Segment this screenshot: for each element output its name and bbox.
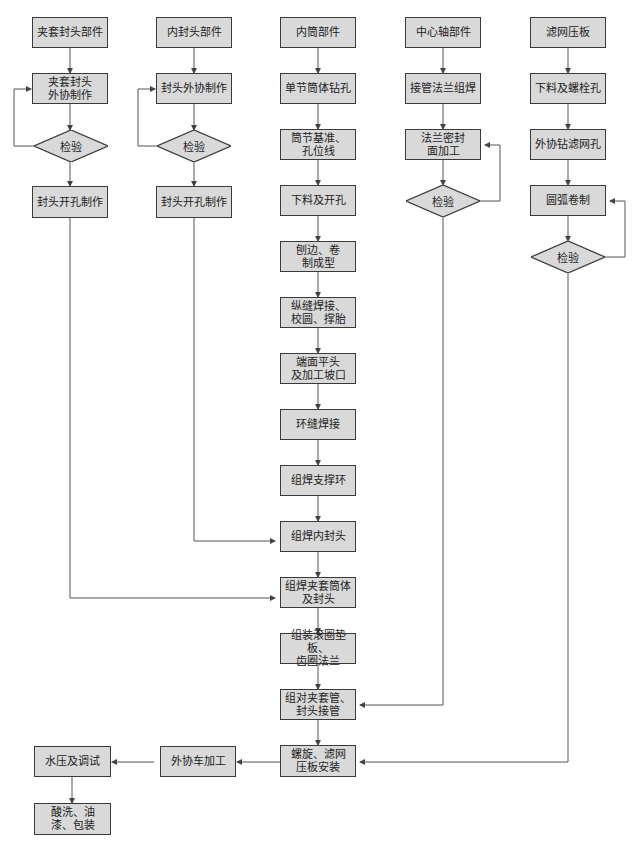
node-step-11: 组装滚圈垫板、 齿圈法兰 [280,633,356,664]
decision-inspect-4: 检验 [531,241,605,273]
node-step-8: 组焊支撑环 [280,465,356,496]
node-step-1: 单节筒体钻孔 [280,73,356,104]
node-step-3: 下料及开孔 [280,185,356,216]
node-step-10: 组焊夹套筒体 及封头 [280,577,356,608]
node-step-6: 端面平头 及加工坡口 [280,353,356,384]
node-jacket-head-outsourced: 夹套封头 外协制作 [32,73,108,104]
node-inner-head-part: 内封头部件 [156,17,232,48]
node-head-outsourced: 封头外协制作 [156,73,232,104]
node-center-shaft-part: 中心轴部件 [405,17,481,48]
node-inner-cylinder-part: 内筒部件 [280,17,356,48]
node-step-7: 环缝焊接 [280,409,356,440]
node-jacket-head-part: 夹套封头部件 [32,17,108,48]
decision-inspect-1: 检验 [34,130,108,162]
node-cut-bolt-holes: 下料及螺栓孔 [530,73,606,104]
decision-inspect-3: 检验 [406,185,480,217]
node-head-drilling-1: 封头开孔制作 [32,186,108,218]
node-outsourced-turning: 外协车加工 [160,746,236,777]
node-step-2: 筒节基准、 孔位线 [280,129,356,160]
node-step-13: 螺旋、滤网 压板安装 [280,745,356,777]
node-pickling-painting-packing: 酸洗、油 漆、包装 [34,803,111,835]
node-step-5: 纵缝焊接、 校圆、撑胎 [280,297,356,328]
decision-inspect-2: 检验 [157,130,231,162]
node-step-12: 组对夹套管、 封头接管 [280,689,356,720]
node-hydro-test: 水压及调试 [34,746,111,777]
node-flange-weld: 接管法兰组焊 [405,73,481,104]
node-step-9: 组焊内封头 [280,521,356,552]
node-outsourced-drilling: 外协钻滤网孔 [530,129,606,160]
node-step-4: 刨边、卷 制成型 [280,241,356,272]
node-arc-rolling: 圆弧卷制 [530,185,606,216]
node-screen-plate: 滤网压板 [530,17,606,48]
node-head-drilling-2: 封头开孔制作 [156,186,232,218]
node-flange-seal-machining: 法兰密封 面加工 [405,129,481,160]
